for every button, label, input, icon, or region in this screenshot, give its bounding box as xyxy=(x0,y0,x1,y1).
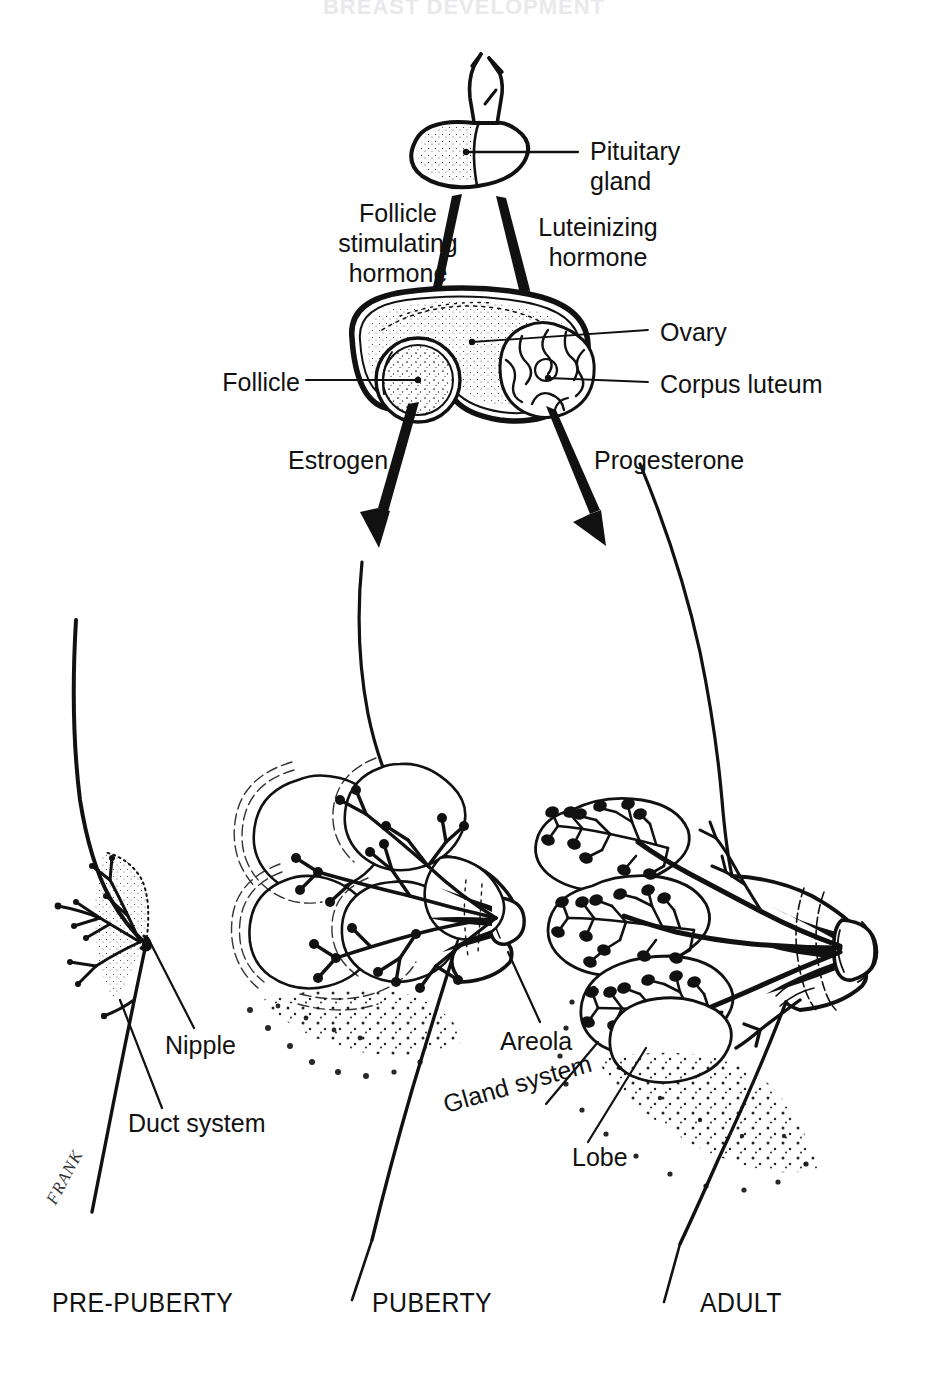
stage-label-pre-puberty: PRE-PUBERTY xyxy=(52,1288,233,1319)
follicle-label: Follicle xyxy=(150,367,300,397)
areola-label: Areola xyxy=(500,1026,572,1056)
stage-label-adult: ADULT xyxy=(700,1288,782,1319)
nipple-label: Nipple xyxy=(165,1030,236,1060)
duct-system-leader-line xyxy=(120,1000,162,1108)
fsh-label: Follicle stimulating hormone xyxy=(318,198,478,288)
progesterone-arrow xyxy=(546,406,606,546)
puberty-breast xyxy=(232,562,525,1240)
nipple-leader-line xyxy=(148,938,194,1028)
progesterone-label: Progesterone xyxy=(594,445,744,475)
diagram-page: BREAST DEVELOPMENT xyxy=(0,0,928,1384)
estrogen-label: Estrogen xyxy=(288,445,388,475)
duct-system-label: Duct system xyxy=(128,1108,266,1138)
areola-leader-line xyxy=(508,952,540,1022)
estrogen-arrow xyxy=(360,402,419,548)
lobe-label: Lobe xyxy=(572,1142,628,1172)
ovary-label: Ovary xyxy=(660,317,727,347)
pituitary-gland-drawing xyxy=(411,54,528,187)
pituitary-gland-label: Pituitary gland xyxy=(590,136,680,196)
stage-label-puberty: PUBERTY xyxy=(372,1288,492,1319)
adult-breast xyxy=(536,464,877,1244)
ovary-drawing xyxy=(352,288,594,422)
lh-label: Luteinizing hormone xyxy=(518,212,678,272)
corpus-luteum-label: Corpus luteum xyxy=(660,369,823,399)
